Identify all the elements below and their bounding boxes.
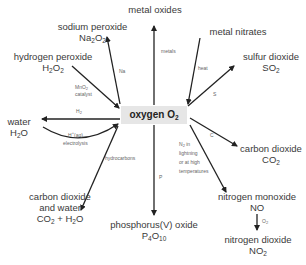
- node-formula: H2O2: [12, 62, 94, 73]
- node-name: nitrogen monoxide: [217, 191, 297, 202]
- node-formula: CO2: [236, 154, 306, 165]
- label-n2-conditions: N2 in lightning or at high temperatures: [179, 140, 208, 176]
- node-co2-and-water: carbon dioxide and water CO2 + H2O: [22, 191, 98, 224]
- node-name: metal nitrates: [198, 26, 278, 37]
- node-sodium-peroxide: sodium peroxide Na2O2: [50, 21, 135, 43]
- node-formula: P4O10: [109, 230, 199, 241]
- node-carbon-dioxide: carbon dioxide CO2: [236, 143, 306, 165]
- label-c: C: [210, 132, 214, 139]
- label-heat: heat: [198, 65, 208, 72]
- node-name: metal oxides: [125, 4, 185, 15]
- label-s: S: [213, 91, 216, 98]
- node-formula: NO2: [222, 245, 294, 256]
- node-formula: CO2 + H2O: [22, 213, 98, 224]
- center-node-oxygen: oxygen O2: [121, 106, 187, 124]
- node-hydrogen-peroxide: hydrogen peroxide H2O2: [12, 51, 94, 73]
- label-h2: H2: [76, 108, 82, 115]
- node-formula: H2O: [0, 127, 38, 138]
- node-metal-nitrates: metal nitrates: [198, 26, 278, 37]
- label-hydrocarbons: hydrocarbons: [105, 155, 135, 162]
- node-name: water: [0, 116, 38, 127]
- node-metal-oxides: metal oxides: [125, 4, 185, 15]
- node-nitrogen-dioxide: nitrogen dioxide NO2: [222, 234, 294, 256]
- label-mno2-catalyst: MnO2catalyst: [75, 84, 92, 97]
- center-name: oxygen: [129, 109, 164, 120]
- node-name: sulfur dioxide: [236, 51, 306, 62]
- node-nitrogen-monoxide: nitrogen monoxide NO: [217, 191, 297, 213]
- label-o2: O2: [262, 218, 268, 225]
- label-metals: metals: [161, 48, 176, 55]
- node-formula: NO: [217, 202, 297, 213]
- center-formula: O: [167, 109, 175, 120]
- node-formula: SO2: [236, 62, 306, 73]
- label-na: Na: [119, 68, 125, 75]
- node-name-line1: carbon dioxide: [22, 191, 98, 202]
- node-phosphorus-oxide: phosphorus(V) oxide P4O10: [109, 219, 199, 241]
- node-formula: Na2O2: [50, 32, 135, 43]
- node-name: phosphorus(V) oxide: [109, 219, 199, 230]
- node-name: carbon dioxide: [236, 143, 306, 154]
- node-name: nitrogen dioxide: [222, 234, 294, 245]
- node-name: hydrogen peroxide: [12, 51, 94, 62]
- arrow-sulfur-dioxide: [188, 66, 234, 106]
- label-electrolysis: electrolysis: [63, 140, 88, 147]
- node-name: sodium peroxide: [50, 21, 135, 32]
- node-water: water H2O: [0, 116, 38, 138]
- label-hplus-aq: H+(aq): [68, 130, 83, 138]
- node-sulfur-dioxide: sulfur dioxide SO2: [236, 51, 306, 73]
- node-name-line2: and water: [22, 202, 98, 213]
- label-p: P: [159, 174, 162, 181]
- center-formula-sub: 2: [175, 114, 179, 121]
